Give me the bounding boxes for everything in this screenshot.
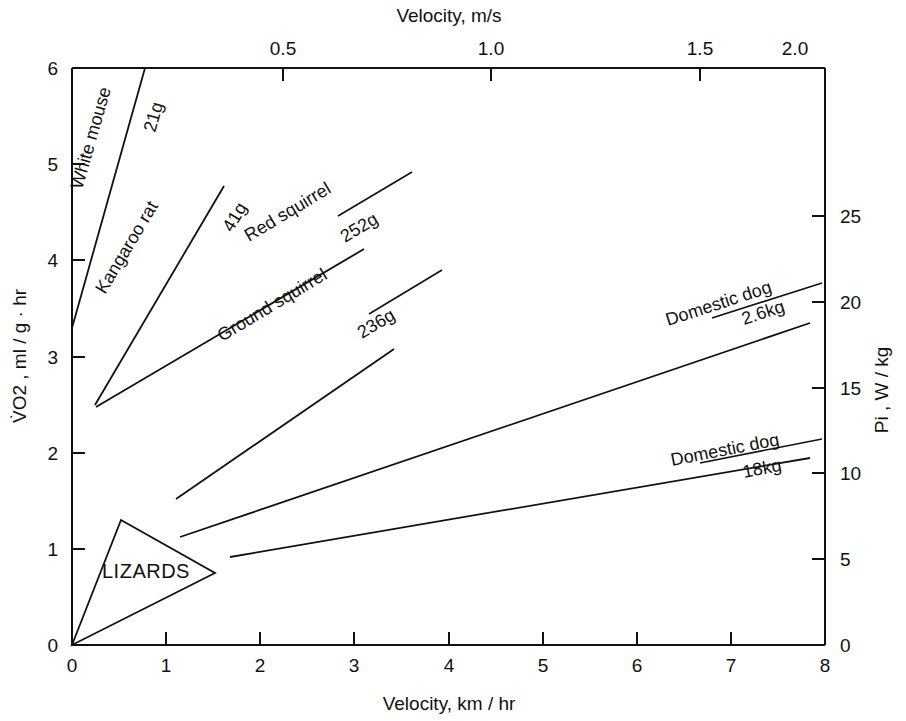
x-tick-label-5: 5	[538, 655, 549, 676]
x-axis-title: Velocity, km / hr	[383, 693, 516, 714]
lizards-region-label: LIZARDS	[102, 560, 190, 582]
series-label-white-mouse-name: White mouse	[67, 85, 115, 191]
y2-tick-label-25: 25	[840, 206, 861, 227]
series-line-kangaroo-rat	[95, 186, 224, 405]
series-label-domestic-dog-2-6kg: Domestic dog 2.6kg	[663, 277, 822, 330]
series-label-white-mouse: White mouse 21g	[67, 85, 168, 191]
x-tick-label-6: 6	[632, 655, 643, 676]
top-axis-ticks: 0.5 1.0 1.5 2.0 Velocity, m/s	[270, 5, 825, 81]
y2-tick-label-20: 20	[840, 292, 861, 313]
y2-tick-label-15: 15	[840, 378, 861, 399]
lizards-region-polygon	[72, 520, 215, 645]
x2-tick-label-2: 1.5	[687, 38, 713, 59]
series-line-domestic-dog-18kg	[230, 458, 810, 557]
figure-root: 0 1 2 3 4 5 6 7 8 Velocity, km / hr 0.5 …	[0, 0, 906, 721]
x2-tick-label-1: 1.0	[478, 38, 504, 59]
series-label-ground-squirrel: Ground squirrel 236g	[214, 264, 442, 345]
x-tick-label-8: 8	[820, 655, 831, 676]
x2-axis-title: Velocity, m/s	[396, 5, 501, 26]
y-tick-label-1: 1	[47, 539, 58, 560]
series-label-red-squirrel: Red squirrel 252g	[241, 172, 412, 246]
series-label-rule-red-squirrel	[338, 172, 412, 216]
y-tick-label-2: 2	[47, 443, 58, 464]
x-tick-label-0: 0	[67, 655, 78, 676]
series-label-rule-ground-squirrel	[369, 270, 442, 314]
y-tick-label-5: 5	[47, 154, 58, 175]
y2-axis-title: Pi , W / kg	[871, 347, 892, 434]
y2-tick-label-0: 0	[840, 635, 851, 656]
y2-tick-label-5: 5	[840, 549, 851, 570]
lizards-region: LIZARDS	[72, 520, 215, 645]
y-tick-label-0: 0	[47, 635, 58, 656]
series-label-red-squirrel-mass: 252g	[337, 209, 382, 247]
series-line-domestic-dog-2-6kg	[180, 323, 810, 537]
series-label-red-squirrel-name: Red squirrel	[241, 178, 334, 245]
oxygen-consumption-vs-velocity-chart: 0 1 2 3 4 5 6 7 8 Velocity, km / hr 0.5 …	[0, 0, 906, 721]
x-tick-label-4: 4	[444, 655, 455, 676]
x-tick-label-2: 2	[255, 655, 266, 676]
y-tick-label-3: 3	[47, 347, 58, 368]
y2-tick-label-10: 10	[840, 463, 861, 484]
series-label-domestic-dog-18kg: Domestic dog 18kg	[669, 429, 822, 482]
series-label-kangaroo-rat: Kangaroo rat 41g	[91, 198, 251, 298]
y-tick-label-6: 6	[47, 58, 58, 79]
x-tick-label-7: 7	[726, 655, 737, 676]
x2-tick-label-3: 2.0	[782, 38, 808, 59]
series-label-kangaroo-rat-name: Kangaroo rat	[91, 198, 162, 298]
x-tick-label-3: 3	[349, 655, 360, 676]
x2-tick-label-0: 0.5	[270, 38, 296, 59]
left-axis-ticks: 6 5 4 3 2 1 0 V̇O2 , ml / g · hr	[9, 58, 85, 656]
y-tick-label-4: 4	[47, 250, 58, 271]
x-tick-label-1: 1	[161, 655, 172, 676]
series-label-ground-squirrel-name: Ground squirrel	[214, 264, 331, 345]
series-label-white-mouse-mass: 21g	[140, 100, 168, 134]
series-line-ground-squirrel	[176, 349, 394, 499]
y-axis-title: V̇O2 , ml / g · hr	[9, 288, 30, 423]
series-label-domestic-dog-18kg-mass: 18kg	[741, 455, 783, 482]
